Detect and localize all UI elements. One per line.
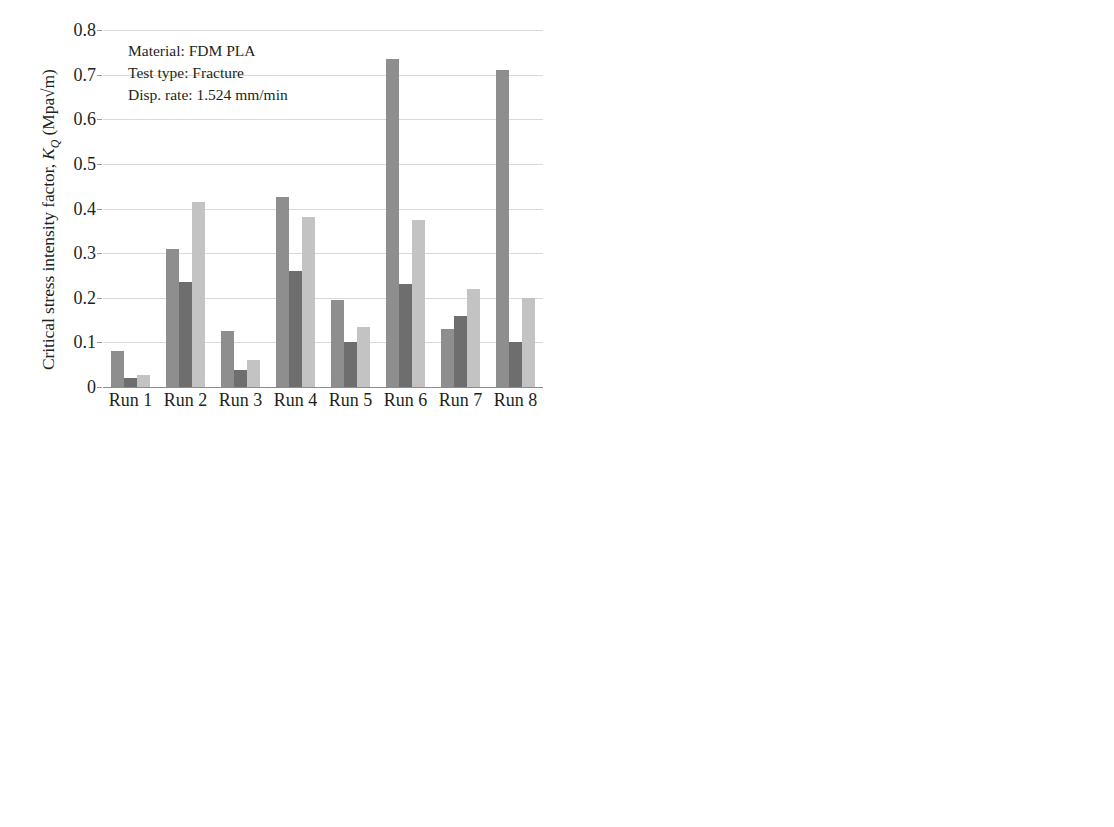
bar [166,249,179,387]
x-axis-tick-label: Run 7 [433,390,488,411]
x-axis-tick-label: Run 4 [268,390,323,411]
y-axis-subscript: Q [48,140,62,149]
bar [441,329,454,387]
bar [454,316,467,387]
y-axis-tick-mark [97,30,102,31]
y-axis-tick-mark [97,75,102,76]
annotation-line-material: Material: FDM PLA [128,40,288,62]
y-axis-tick-label: 0.4 [74,200,97,218]
y-axis-label-wrap-1: Critical stress intensity factor, KQ (Mp… [0,0,46,413]
bar-group [323,30,378,387]
bar [357,327,370,387]
bar [289,271,302,387]
annotation-line-testtype: Test type: Fracture [128,62,288,84]
x-axis-labels-1: Run 1Run 2Run 3Run 4Run 5Run 6Run 7Run 8 [103,390,543,411]
y-axis-tick-label: 0 [87,378,96,396]
bar [302,217,315,387]
y-axis-tick-mark [97,119,102,120]
x-axis-tick-label: Run 6 [378,390,433,411]
y-axis-tick-mark [97,387,102,388]
annotation-line-disprate: Disp. rate: 1.524 mm/min [128,84,288,106]
x-axis-tick-label: Run 1 [103,390,158,411]
y-axis-label-wrap-3: Energy absorbed, UTF (J) [0,413,46,827]
y-axis-tick-label: 0.6 [74,110,97,128]
bar [179,282,192,387]
x-axis-tick-label: Run 8 [488,390,543,411]
panel-strength-ratio: Strenght ratio, RSC 05001000150020002500… [557,413,1114,827]
panel-energy-absorbed: Energy absorbed, UTF (J) 00.10.20.30.40.… [0,413,557,827]
bar [192,202,205,387]
bar [386,59,399,387]
y-axis-tick-label: 0.1 [74,333,97,351]
y-axis-label-wrap-2: Ultimate load, Pult (N) [557,0,603,413]
bar [111,351,124,387]
y-axis-tick-label: 0.7 [74,66,97,84]
x-axis-tick-label: Run 5 [323,390,378,411]
bar [509,342,522,387]
y-axis-tick-label: 0.8 [74,21,97,39]
bar [344,342,357,387]
y-axis-tick-label: 0.3 [74,244,97,262]
panel-ultimate-load: Ultimate load, Pult (N) 0501001502002503… [557,0,1114,413]
figure-four-panel-bar-charts: Critical stress intensity factor, KQ (Mp… [0,0,1114,827]
x-axis-tick-label: Run 3 [213,390,268,411]
y-axis-symbol: K [38,148,58,160]
bar-group [488,30,543,387]
bar-group [378,30,433,387]
bar [399,284,412,387]
x-axis-line [103,387,543,388]
bar [221,331,234,387]
x-axis-tick-label: Run 2 [158,390,213,411]
bar [467,289,480,387]
bar [234,370,247,387]
y-axis-tick-mark [97,342,102,343]
bar [276,197,289,387]
bar [412,220,425,387]
annotation-block: Material: FDM PLA Test type: Fracture Di… [128,40,288,106]
bar-group [433,30,488,387]
y-axis-tick-label: 0.2 [74,289,97,307]
y-axis-tick-label: 0.5 [74,155,97,173]
bar [496,70,509,387]
bar [331,300,344,387]
y-axis-tick-mark [97,164,102,165]
y-axis-label-1: Critical stress intensity factor, KQ (Mp… [38,69,63,370]
bar [247,360,260,387]
bar [137,375,150,387]
panel-critical-stress-intensity-factor: Critical stress intensity factor, KQ (Mp… [0,0,557,413]
bar [124,378,137,387]
y-axis-label-wrap-4: Strenght ratio, RSC [557,413,603,827]
y-axis-tick-mark [97,253,102,254]
y-axis-tick-mark [97,209,102,210]
y-axis-tick-mark [97,298,102,299]
bar [522,298,535,387]
